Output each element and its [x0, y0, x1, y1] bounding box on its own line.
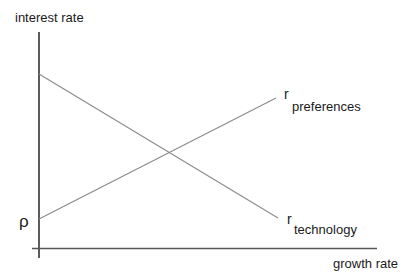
- x-axis-label: growth rate: [333, 256, 398, 271]
- preferences-line: [39, 98, 276, 219]
- preferences-subscript: preferences: [292, 99, 361, 114]
- preferences-r-label: r: [284, 86, 289, 102]
- diagram-canvas: [0, 0, 406, 280]
- technology-subscript: technology: [294, 222, 357, 237]
- technology-line: [39, 74, 278, 218]
- technology-r-label: r: [287, 211, 292, 227]
- rho-label: ρ: [19, 212, 29, 232]
- y-axis-label: interest rate: [15, 10, 84, 25]
